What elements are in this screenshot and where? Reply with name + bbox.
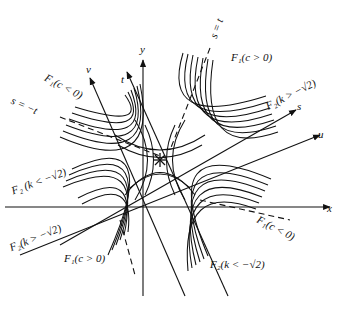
diagram-canvas: x y t v s u s = t s = −t F₁(c > 0) F₁(c … xyxy=(0,0,345,312)
label-f1-c-pos-bottom: F₁(c > 0) xyxy=(64,253,105,264)
asymptote-s-eq-neg-t xyxy=(60,117,165,158)
u-axis xyxy=(20,135,320,255)
v-axis-label: v xyxy=(86,64,91,75)
s-axis-label: s xyxy=(297,101,301,112)
x-axis-label: x xyxy=(327,203,332,214)
label-f1-c-pos-top: F₁(c > 0) xyxy=(231,52,272,63)
t-axis-label: t xyxy=(121,74,124,85)
center-star-icon xyxy=(153,153,167,167)
u-axis-label: u xyxy=(318,129,324,140)
curve-family-plot xyxy=(0,0,345,312)
label-f2-k-lt-bottom: F₂(k < −√2) xyxy=(210,259,265,270)
y-axis-label: y xyxy=(140,44,145,55)
curve-families xyxy=(60,53,278,271)
